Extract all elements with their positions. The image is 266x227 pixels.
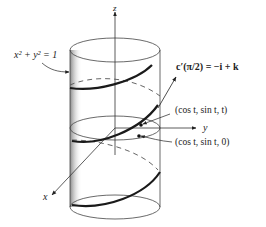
helix-front-bottom [72,172,160,206]
projection-point-marker [137,134,141,138]
cylinder-equation-label: x² + y² = 1 [13,49,57,60]
helix-point-leader [143,114,170,124]
tangent-vector-arrow [158,77,176,108]
helix-point-label: (cos t, sin t, t) [175,105,227,116]
helix-point-marker [139,123,143,127]
tangent-vector-label: c′(π/2) = −i + k [176,61,239,73]
equation-leader-arrow [42,63,69,72]
helix-diagram: z y x x² + y² = 1 c′(π/2) = −i + k (cos … [0,0,266,227]
y-axis-label: y [202,122,208,133]
helix-front-top [70,65,152,89]
x-axis-label: x [42,191,48,202]
projection-point-label: (cos t, sin t, 0) [175,137,229,148]
z-axis-label: z [112,3,117,13]
cylinder-shading [70,50,82,207]
projection-point-leader [141,136,172,142]
